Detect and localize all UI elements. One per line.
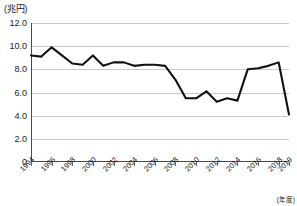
- data-series-svg: [0, 0, 297, 206]
- line-chart: (兆円) 02.04.06.08.010.012.0 1994199619982…: [0, 0, 297, 206]
- x-axis-unit-label: (年度): [277, 194, 295, 204]
- series-line: [31, 47, 289, 114]
